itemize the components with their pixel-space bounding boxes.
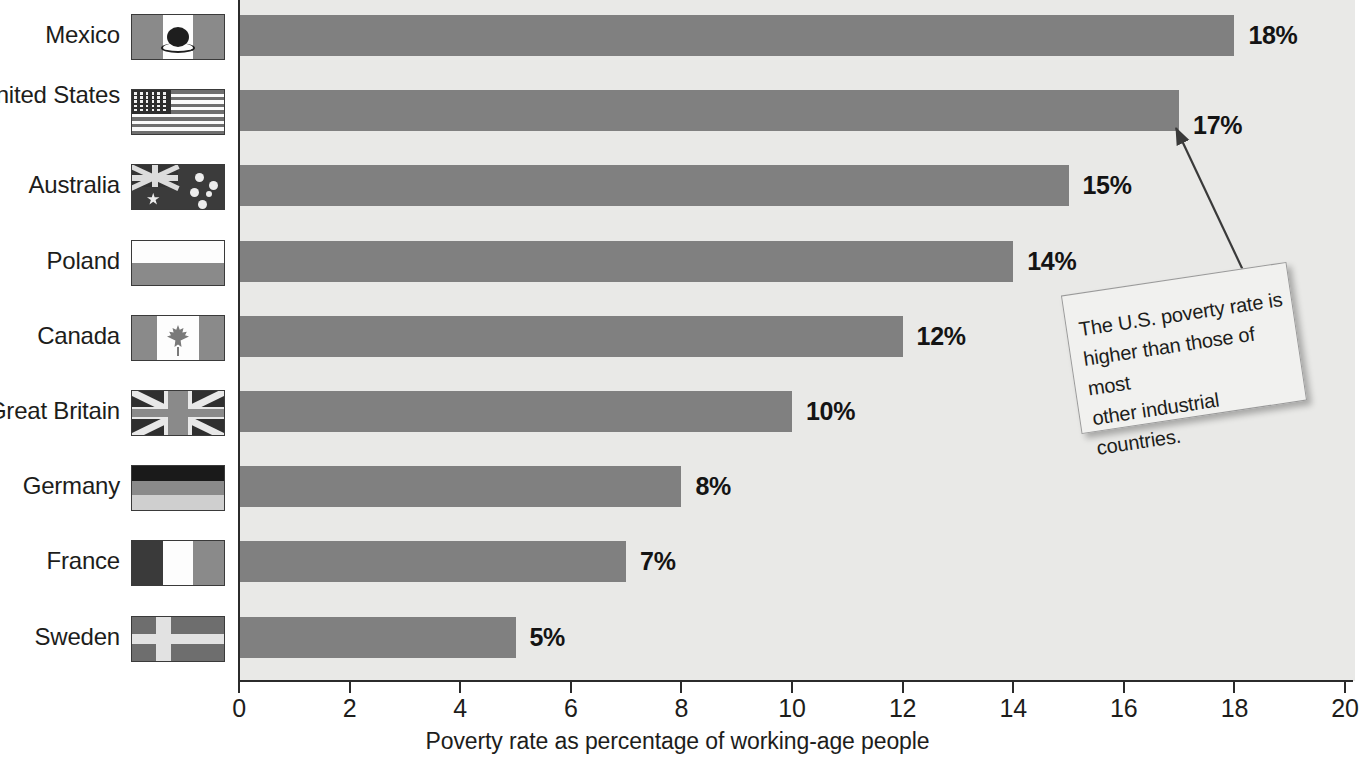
country-label-sweden: Sweden	[0, 623, 120, 651]
flag-great-britain-icon	[131, 390, 225, 436]
x-tick	[902, 682, 904, 693]
country-label-france: France	[0, 547, 120, 575]
x-tick	[349, 682, 351, 693]
country-label-united-states: United States	[0, 81, 120, 109]
x-tick	[1012, 682, 1014, 693]
x-tick	[680, 682, 682, 693]
x-tick-label: 18	[1221, 694, 1248, 723]
bar-sweden	[239, 617, 516, 658]
bar-value-label: 15%	[1083, 171, 1132, 200]
flag-france-icon	[131, 540, 225, 586]
flag-poland-icon	[131, 240, 225, 286]
table-row: Sweden5%	[0, 616, 1355, 664]
x-tick	[570, 682, 572, 693]
bar-value-label: 7%	[640, 547, 676, 576]
x-tick	[1344, 682, 1346, 693]
country-label-australia: Australia	[0, 171, 120, 199]
x-tick	[238, 682, 240, 693]
table-row: Poland14%	[0, 240, 1355, 288]
bar-value-label: 18%	[1248, 21, 1297, 50]
bar-poland	[239, 241, 1013, 282]
table-row: Mexico18%	[0, 14, 1355, 62]
bar-france	[239, 541, 626, 582]
bar-value-label: 8%	[695, 472, 731, 501]
flag-united-states-icon	[131, 89, 225, 135]
bar-value-label: 12%	[917, 322, 966, 351]
callout-text: The U.S. poverty rate is higher than tho…	[1077, 284, 1305, 463]
bar-australia	[239, 165, 1069, 206]
table-row: Australia15%	[0, 164, 1355, 212]
x-tick	[1233, 682, 1235, 693]
country-label-germany: Germany	[0, 472, 120, 500]
bar-value-label: 14%	[1027, 247, 1076, 276]
bar-germany	[239, 466, 681, 507]
x-tick-label: 8	[675, 694, 689, 723]
x-tick	[791, 682, 793, 693]
x-tick-label: 16	[1110, 694, 1137, 723]
x-tick-label: 2	[343, 694, 357, 723]
bar-mexico	[239, 15, 1234, 56]
x-tick-label: 20	[1331, 694, 1358, 723]
table-row: Germany8%	[0, 465, 1355, 513]
flag-germany-icon	[131, 465, 225, 511]
bar-value-label: 17%	[1193, 111, 1242, 140]
bar-great-britain	[239, 391, 792, 432]
country-label-great-britain: Great Britain	[0, 397, 120, 425]
flag-sweden-icon	[131, 616, 225, 662]
table-row: United States17%	[0, 89, 1355, 137]
table-row: France7%	[0, 540, 1355, 588]
x-tick-label: 10	[778, 694, 805, 723]
bar-value-label: 5%	[530, 623, 566, 652]
x-tick-label: 12	[889, 694, 916, 723]
country-label-mexico: Mexico	[0, 21, 120, 49]
flag-australia-icon	[131, 164, 225, 210]
x-tick-label: 0	[232, 694, 246, 723]
bar-canada	[239, 316, 903, 357]
x-axis-line	[238, 680, 1353, 682]
x-axis-title: Poverty rate as percentage of working-ag…	[0, 728, 1355, 755]
x-tick-label: 4	[453, 694, 467, 723]
country-label-canada: Canada	[0, 322, 120, 350]
x-tick-label: 14	[999, 694, 1026, 723]
y-axis-line	[238, 0, 240, 681]
bar-value-label: 10%	[806, 397, 855, 426]
flag-canada-icon	[131, 315, 225, 361]
x-tick	[459, 682, 461, 693]
x-tick-label: 6	[564, 694, 578, 723]
bar-united-states	[239, 90, 1179, 131]
country-label-poland: Poland	[0, 247, 120, 275]
flag-mexico-icon	[131, 14, 225, 60]
x-tick	[1123, 682, 1125, 693]
